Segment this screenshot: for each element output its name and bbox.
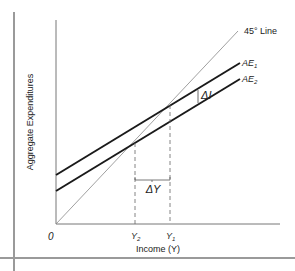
ae1-label: AE1	[241, 58, 257, 69]
y2-tick-label: Y2	[131, 231, 141, 242]
45-degree-line	[56, 31, 238, 224]
delta-y-label: ΔY	[145, 183, 161, 195]
ae2-label: AE2	[241, 74, 258, 85]
origin-label: 0	[48, 231, 54, 242]
45-degree-line-label: 45° Line	[244, 26, 277, 36]
y-axis-label: Aggregate Expenditures	[25, 73, 35, 170]
ae2-line	[56, 79, 240, 191]
ae1-line	[56, 63, 240, 175]
delta-y-bracket	[135, 177, 170, 180]
delta-i-label: ΔI	[200, 89, 211, 101]
x-axis-label: Income (Y)	[136, 244, 180, 254]
aggregate-expenditure-chart: ΔY ΔI 45° Line AE1 AE2 Aggregate Expendi…	[0, 0, 295, 271]
y1-tick-label: Y1	[166, 231, 175, 242]
